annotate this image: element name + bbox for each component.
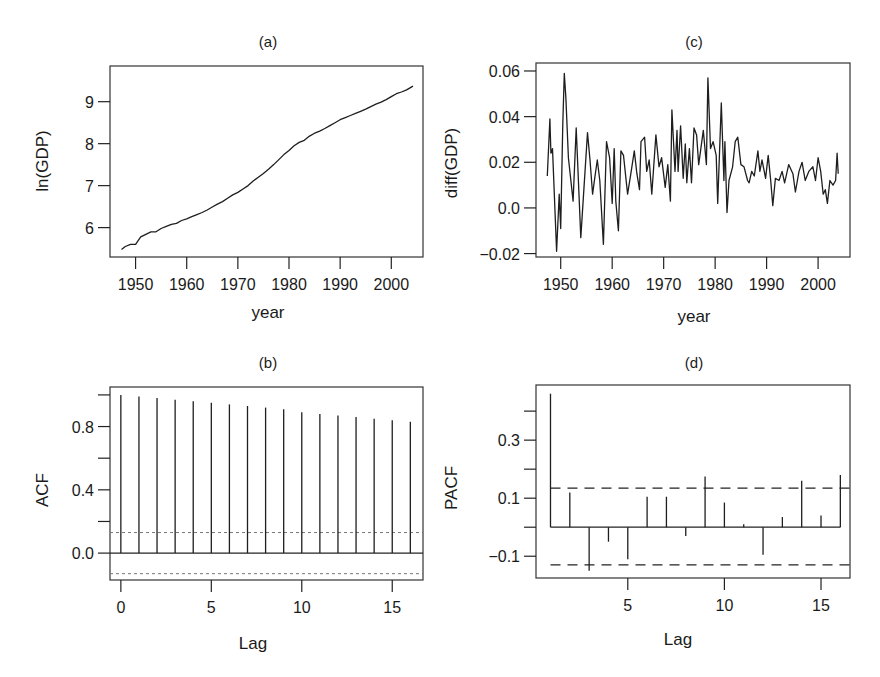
- panel-b-acf: (b) 051015 0.00.40.8 Lag ACF: [33, 354, 423, 653]
- y-axis-title: ln(GDP): [33, 130, 52, 191]
- x-tick-label: 10: [716, 597, 734, 614]
- y-tick-label: 0.04: [489, 109, 520, 126]
- x-tick-label: 2000: [800, 276, 836, 293]
- x-axis-title: Lag: [664, 630, 692, 649]
- x-tick-label: 2000: [373, 276, 409, 293]
- y-axis: −0.10.10.3: [488, 411, 536, 565]
- y-tick-label: 9: [85, 94, 94, 111]
- y-axis-title: PACF: [442, 466, 461, 510]
- x-tick-label: 5: [623, 597, 632, 614]
- y-tick-label: 0.1: [498, 490, 520, 507]
- confidence-bands: [550, 488, 850, 565]
- y-tick-label: 0.06: [489, 63, 520, 80]
- panel-d-pacf: (d) 51015 −0.10.10.3 Lag PACF: [442, 354, 850, 649]
- panel-a-title: (a): [259, 33, 277, 50]
- x-tick-label: 1990: [749, 276, 785, 293]
- x-tick-label: 10: [293, 599, 311, 616]
- x-tick-label: 0: [116, 599, 125, 616]
- y-axis: 6789: [85, 94, 110, 237]
- panel-d-title: (d): [685, 354, 703, 371]
- x-axis-title: year: [251, 303, 284, 322]
- y-tick-label: −0.02: [480, 246, 521, 263]
- y-axis-title: diff(GDP): [442, 128, 461, 199]
- x-axis-title: Lag: [239, 634, 267, 653]
- x-tick-label: 15: [383, 599, 401, 616]
- y-axis-title: ACF: [33, 473, 52, 507]
- y-axis: −0.020.00.020.040.06: [480, 63, 536, 263]
- x-axis: 195019601970198019902000: [543, 257, 836, 293]
- y-tick-label: 7: [85, 178, 94, 195]
- x-tick-label: 1950: [543, 276, 579, 293]
- figure: (a) 195019601970198019902000 6789 year l…: [0, 0, 880, 677]
- x-tick-label: 1970: [220, 276, 256, 293]
- x-tick-label: 15: [812, 597, 830, 614]
- panel-a-ln-gdp: (a) 195019601970198019902000 6789 year l…: [33, 33, 423, 322]
- x-tick-label: 1960: [594, 276, 630, 293]
- y-tick-label: 8: [85, 136, 94, 153]
- y-tick-label: 6: [85, 220, 94, 237]
- x-axis: 195019601970198019902000: [118, 257, 409, 293]
- pacf-stems: [550, 394, 840, 571]
- ln-gdp-line: [122, 86, 414, 249]
- y-tick-label: 0.02: [489, 154, 520, 171]
- acf-stems: [110, 395, 423, 553]
- plot-frame: [536, 385, 850, 578]
- y-tick-label: −0.1: [488, 548, 520, 565]
- panel-c-title: (c): [685, 33, 703, 50]
- y-tick-label: 0.3: [498, 432, 520, 449]
- y-tick-label: 0.4: [72, 482, 94, 499]
- x-tick-label: 1970: [646, 276, 682, 293]
- x-tick-label: 5: [207, 599, 216, 616]
- diff-gdp-line: [547, 73, 838, 251]
- y-tick-label: 0.0: [498, 200, 520, 217]
- x-axis: 51015: [623, 578, 830, 614]
- x-tick-label: 1950: [118, 276, 154, 293]
- x-tick-label: 1980: [271, 276, 307, 293]
- y-tick-label: 0.0: [72, 545, 94, 562]
- x-tick-label: 1980: [697, 276, 733, 293]
- x-tick-label: 1960: [169, 276, 205, 293]
- panel-c-diff-gdp: (c) 195019601970198019902000 −0.020.00.0…: [442, 33, 850, 326]
- panel-b-title: (b): [259, 354, 277, 371]
- y-axis: 0.00.40.8: [72, 395, 110, 562]
- x-tick-label: 1990: [322, 276, 358, 293]
- x-axis-title: year: [677, 307, 710, 326]
- plot-frame: [110, 66, 423, 257]
- x-axis: 051015: [116, 580, 401, 616]
- y-tick-label: 0.8: [72, 419, 94, 436]
